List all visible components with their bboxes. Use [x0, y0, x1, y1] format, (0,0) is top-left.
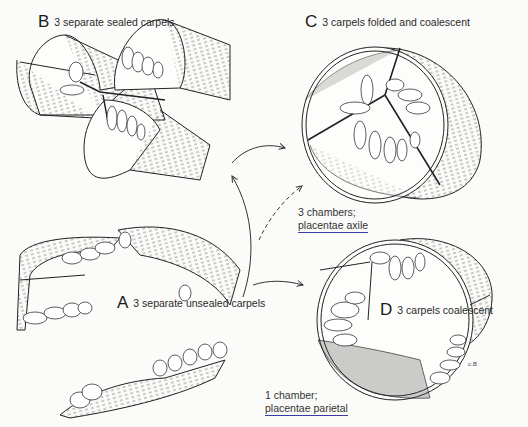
panel-c-drawing	[302, 47, 481, 203]
panel-b-label: B3 separate sealed carpels	[38, 12, 175, 32]
panel-title: 3 separate unsealed carpels	[133, 297, 265, 309]
artist-signature: c.B.	[468, 361, 478, 367]
panel-c-note: 3 chambers; placentae axile	[298, 206, 368, 233]
panel-letter: B	[38, 12, 49, 31]
panel-d-note: 1 chamber; placentae parietal	[265, 389, 348, 416]
note-line-2: placentae parietal	[265, 402, 348, 416]
note-line-1: 1 chamber;	[265, 389, 348, 402]
panel-title: 3 carpels folded and coalescent	[322, 16, 470, 28]
panel-a-label: A3 separate unsealed carpels	[117, 293, 265, 313]
arrows	[232, 146, 303, 297]
note-line-1: 3 chambers;	[298, 206, 368, 219]
panel-title: 3 carpels coalescent	[397, 304, 493, 316]
panel-title: 3 separate sealed carpels	[54, 16, 174, 28]
panel-letter: D	[380, 300, 392, 319]
panel-c-label: C3 carpels folded and coalescent	[305, 12, 470, 32]
panel-a-drawing	[17, 227, 240, 418]
panel-letter: C	[305, 12, 317, 31]
arrow-a-to-c-dashed	[259, 186, 302, 240]
arrow-a-to-d	[253, 281, 303, 285]
diagram-canvas	[0, 0, 528, 427]
note-line-2: placentae axile	[298, 219, 368, 233]
panel-letter: A	[117, 293, 128, 312]
panel-d-label: D3 carpels coalescent	[380, 300, 493, 320]
panel-b-drawing	[17, 20, 230, 180]
arrow-b-to-c	[232, 146, 285, 163]
